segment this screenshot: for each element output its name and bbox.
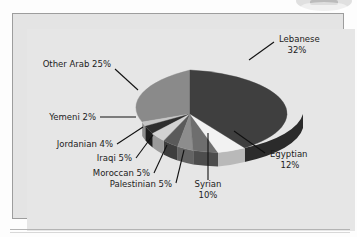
page-divider-secondary (10, 232, 350, 233)
label-syrian-pct: 10% (199, 190, 218, 200)
label-palestinian: Palestinian 5% (110, 179, 172, 189)
leader-line-jordanian (117, 127, 143, 144)
page-divider (10, 229, 350, 230)
slice-top-other-arab (136, 70, 190, 122)
label-egyptian-name: Egyptian (270, 149, 307, 159)
label-other-arab: Other Arab 25% (43, 59, 111, 69)
leader-line-lebanese (249, 42, 274, 60)
pie-chart: Lebanese 32% Egyptian 12% Other Arab 25%… (12, 13, 344, 219)
label-egyptian-pct: 12% (281, 160, 300, 170)
label-iraqi: Iraqi 5% (97, 153, 132, 163)
label-lebanese-pct: 32% (288, 45, 307, 55)
label-yemeni: Yemeni 2% (48, 112, 96, 122)
scan-artifact-highlight-icon (300, 2, 348, 13)
figure-root: Lebanese 32% Egyptian 12% Other Arab 25%… (0, 0, 357, 237)
label-jordanian: Jordanian 4% (56, 139, 113, 149)
label-lebanese-name: Lebanese (279, 34, 320, 44)
label-moroccan: Moroccan 5% (93, 168, 150, 178)
leader-line-other-arab (115, 69, 138, 90)
slice-side-syrian (193, 151, 218, 167)
label-syrian-name: Syrian (195, 179, 222, 189)
